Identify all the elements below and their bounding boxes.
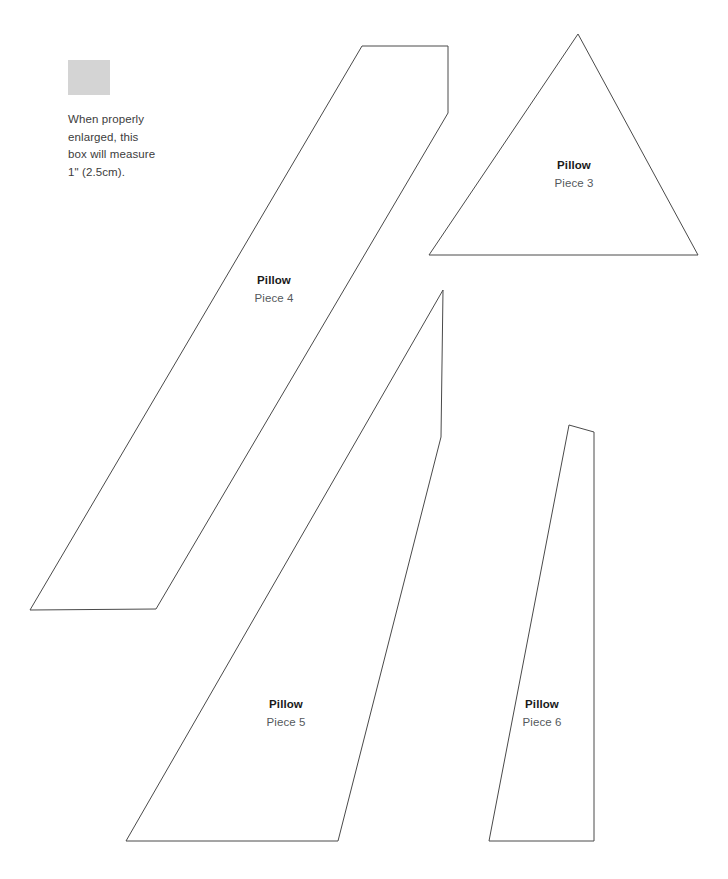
piece-5-subtitle: Piece 5 bbox=[216, 714, 356, 731]
piece-4-subtitle: Piece 4 bbox=[204, 290, 344, 307]
scale-reference-caption: When properly enlarged, this box will me… bbox=[68, 111, 218, 181]
scale-caption-line-2: enlarged, this bbox=[68, 129, 218, 147]
piece-6-subtitle: Piece 6 bbox=[472, 714, 612, 731]
piece-5-label: Pillow Piece 5 bbox=[216, 696, 356, 731]
piece-3-outline[interactable] bbox=[429, 34, 698, 255]
piece-3-title: Pillow bbox=[504, 157, 644, 173]
scale-reference-box bbox=[68, 60, 110, 95]
scale-reference-block: When properly enlarged, this box will me… bbox=[68, 60, 218, 181]
pattern-sheet: When properly enlarged, this box will me… bbox=[0, 0, 728, 879]
piece-5-title: Pillow bbox=[216, 696, 356, 712]
piece-4-title: Pillow bbox=[204, 272, 344, 288]
piece-3-subtitle: Piece 3 bbox=[504, 175, 644, 192]
piece-6-label: Pillow Piece 6 bbox=[472, 696, 612, 731]
piece-6-title: Pillow bbox=[472, 696, 612, 712]
scale-caption-line-4: 1" (2.5cm). bbox=[68, 164, 218, 182]
scale-caption-line-3: box will measure bbox=[68, 146, 218, 164]
piece-4-label: Pillow Piece 4 bbox=[204, 272, 344, 307]
scale-caption-line-1: When properly bbox=[68, 111, 218, 129]
piece-6-outline[interactable] bbox=[489, 425, 594, 841]
piece-3-label: Pillow Piece 3 bbox=[504, 157, 644, 192]
